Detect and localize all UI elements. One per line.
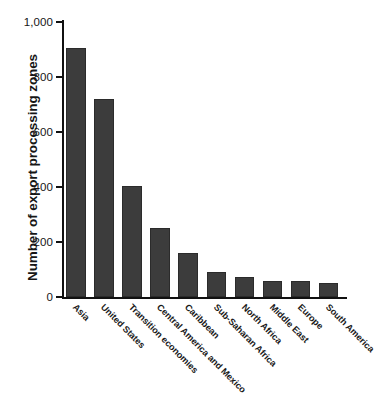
y-tick-label: 1,000 (24, 16, 53, 28)
y-tick-label: 0 (47, 291, 54, 303)
bar (319, 283, 339, 297)
bar (66, 48, 86, 297)
bar (263, 281, 283, 297)
bar (291, 281, 311, 297)
y-tick-label: 200 (34, 236, 54, 248)
bars-layer (62, 22, 345, 297)
bar (94, 99, 114, 297)
y-tick-label: 400 (34, 181, 54, 193)
bar (122, 186, 142, 297)
x-category-label: South America (324, 302, 376, 354)
x-axis-line (62, 297, 347, 299)
y-tick-label: 600 (34, 126, 54, 138)
x-category-label: Asia (71, 302, 92, 323)
bar (178, 253, 198, 297)
bar (150, 228, 170, 297)
bar (235, 277, 255, 297)
y-tick-label: 800 (34, 71, 54, 83)
bar (207, 272, 227, 297)
y-axis-title: Number of export processing zones (25, 28, 40, 308)
